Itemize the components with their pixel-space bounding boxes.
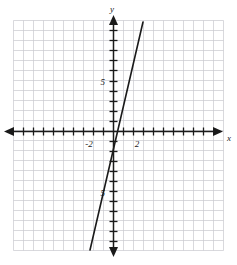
coordinate-plane-figure: -2 2 x <box>0 0 237 265</box>
x-axis-label: x <box>226 133 231 143</box>
x-axis-arrow-left <box>4 127 14 136</box>
plotted-line-series <box>90 22 143 250</box>
y-axis-label: y <box>109 4 114 14</box>
y-axis-arrow-up <box>109 15 118 25</box>
x-axis-arrow-right <box>213 127 223 136</box>
graph-screenshot: -2 2 x <box>0 0 237 265</box>
grid-lines <box>14 21 224 251</box>
y-tick-label-negative-five: 5 <box>101 188 106 198</box>
line-segment <box>90 22 143 250</box>
x-tick-label-positive-two: 2 <box>135 139 140 149</box>
y-axis-arrow-down <box>109 247 118 257</box>
x-tick-label-negative-two: -2 <box>85 139 93 149</box>
y-tick-label-positive-five: 5 <box>101 77 106 87</box>
